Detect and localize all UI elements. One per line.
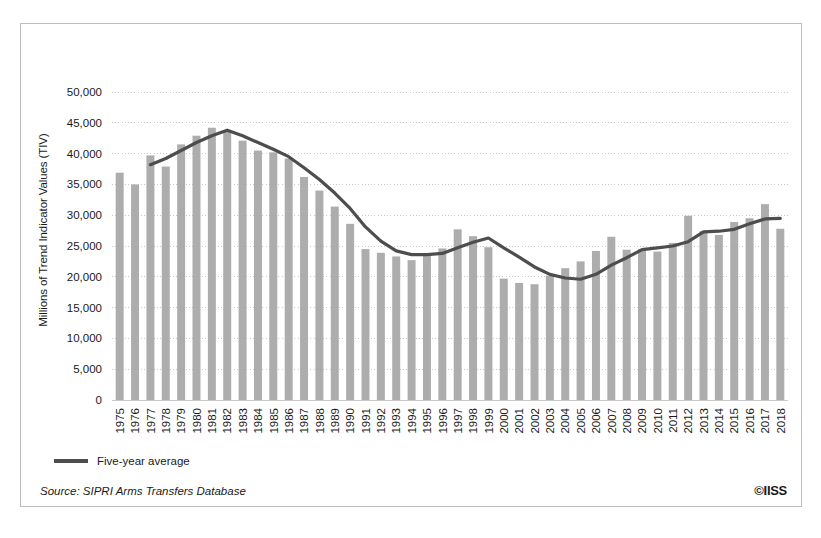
bar (638, 249, 646, 400)
bar (761, 204, 769, 400)
y-axis-tick-label: 15,000 (67, 302, 102, 314)
x-axis-tick-label: 1999 (483, 408, 495, 434)
x-axis-tick-label: 1996 (437, 408, 449, 434)
figure: Millions of Trend Indicator Values (TIV)… (0, 0, 821, 538)
bar (116, 173, 124, 400)
bar (607, 237, 615, 400)
x-axis-tick-label: 1997 (452, 408, 464, 434)
x-axis-tick-label: 2011 (667, 408, 679, 433)
bar (438, 248, 446, 400)
x-axis-tick-label: 1985 (268, 408, 280, 434)
x-axis-tick-label: 2010 (652, 408, 664, 434)
bar (269, 152, 277, 400)
x-axis-tick-label: 2017 (759, 408, 771, 434)
x-axis-tick-label: 1989 (329, 408, 341, 434)
x-axis-tick-label: 1992 (375, 408, 387, 434)
x-axis-tick-label: 1981 (206, 408, 218, 434)
x-axis-tick-label: 2008 (621, 408, 633, 434)
bar (193, 136, 201, 400)
y-axis-tick-label: 20,000 (67, 271, 102, 283)
x-axis-tick-label: 2018 (775, 408, 787, 434)
x-axis-tick-label: 1988 (314, 408, 326, 434)
bar (700, 231, 708, 400)
y-axis-tick-label: 35,000 (67, 178, 102, 190)
bar (392, 256, 400, 400)
x-axis-tick-label: 2000 (498, 408, 510, 434)
x-axis-tick-label: 2009 (636, 408, 648, 434)
bar (669, 243, 677, 400)
x-axis-tick-label: 1993 (390, 408, 402, 434)
bar (546, 276, 554, 400)
x-axis-tick-label: 2015 (728, 408, 740, 434)
y-axis-tick-label: 5,000 (73, 363, 102, 375)
bar (730, 222, 738, 400)
y-axis-tick-label: 50,000 (67, 86, 102, 98)
bar (177, 144, 185, 400)
source-note: Source: SIPRI Arms Transfers Database (40, 485, 246, 497)
x-axis-tick-label: 1975 (114, 408, 126, 434)
bar (131, 184, 139, 400)
y-axis-tick-label: 30,000 (67, 209, 102, 221)
bar (362, 249, 370, 400)
x-axis-tick-label: 1980 (191, 408, 203, 434)
bar (146, 155, 154, 400)
bar (454, 229, 462, 400)
bar (254, 151, 262, 400)
x-axis-tick-label: 1987 (298, 408, 310, 434)
bar (408, 260, 416, 400)
bar (776, 229, 784, 400)
legend-line-swatch (54, 459, 88, 463)
bar (223, 131, 231, 400)
y-axis-tick-label: 10,000 (67, 332, 102, 344)
x-axis-tick-label: 1976 (129, 408, 141, 434)
y-axis-tick-label: 40,000 (67, 148, 102, 160)
bar (300, 177, 308, 400)
bar (515, 283, 523, 400)
x-axis-tick-label: 2014 (713, 407, 725, 433)
bar (285, 159, 293, 400)
chart-plot: 05,00010,00015,00020,00025,00030,00035,0… (20, 23, 802, 507)
x-axis-tick-label: 1977 (145, 408, 157, 434)
x-axis-tick-label: 2007 (606, 408, 618, 434)
bar (653, 252, 661, 400)
y-axis-tick-label: 0 (96, 394, 102, 406)
x-axis-tick-label: 2002 (529, 408, 541, 434)
bar (346, 224, 354, 400)
x-axis-tick-label: 1998 (467, 408, 479, 434)
y-axis-ticks: 05,00010,00015,00020,00025,00030,00035,0… (67, 86, 102, 406)
legend: Five-year average (54, 455, 190, 467)
bar (500, 279, 508, 400)
bar-series (116, 128, 785, 400)
x-axis-tick-label: 2016 (744, 408, 756, 434)
x-axis-tick-label: 2001 (513, 408, 525, 434)
x-axis-tick-label: 1978 (160, 408, 172, 434)
bar (531, 284, 539, 400)
x-axis-tick-label: 1990 (344, 408, 356, 434)
bar (746, 218, 754, 400)
bar (561, 268, 569, 400)
bar (484, 247, 492, 400)
x-axis-tick-label: 2012 (682, 408, 694, 434)
bar (315, 191, 323, 400)
x-axis-tick-label: 2013 (698, 408, 710, 434)
x-axis-tick-label: 1995 (421, 408, 433, 434)
x-axis-tick-label: 1983 (237, 408, 249, 434)
bar (331, 207, 339, 400)
x-axis-tick-label: 1984 (252, 407, 264, 433)
copyright-mark: ©IISS (754, 483, 787, 498)
bar (715, 235, 723, 400)
bar (208, 128, 216, 400)
x-axis-tick-label: 1991 (360, 408, 372, 434)
x-axis-tick-label: 1986 (283, 408, 295, 434)
legend-line-label: Five-year average (97, 455, 190, 467)
bar (239, 141, 247, 400)
x-axis-tick-label: 2005 (575, 408, 587, 434)
x-axis-tick-label: 2004 (559, 407, 571, 433)
x-axis-tick-label: 1982 (221, 408, 233, 434)
bar (577, 261, 585, 400)
x-axis-ticks: 1975197619771978197919801981198219831984… (114, 407, 787, 433)
x-axis-tick-label: 2003 (544, 408, 556, 434)
bar (377, 253, 385, 400)
y-axis-tick-label: 25,000 (67, 240, 102, 252)
bar (162, 167, 170, 400)
